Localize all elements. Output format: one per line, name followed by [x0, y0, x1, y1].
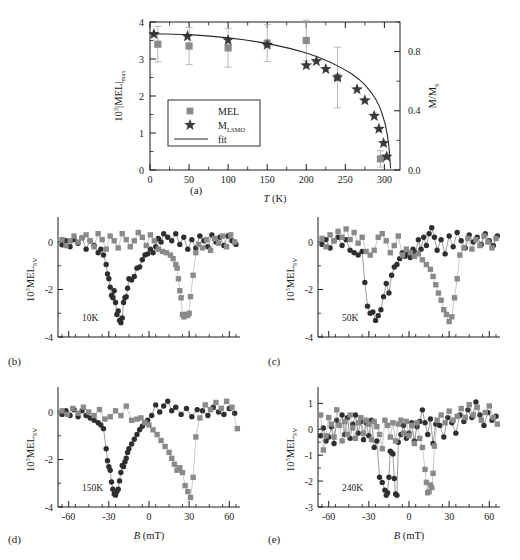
y-tick-label: 4 — [139, 17, 144, 28]
data-point — [359, 94, 371, 105]
data-point — [412, 441, 417, 446]
data-point — [140, 235, 145, 240]
data-point — [479, 418, 484, 423]
y-tick-label: -3 — [305, 502, 313, 513]
data-point — [113, 408, 118, 413]
data-point — [424, 243, 429, 248]
data-point — [342, 419, 347, 424]
data-point — [373, 123, 385, 134]
data-point — [436, 290, 441, 295]
data-point — [489, 245, 494, 250]
x-tick-label: 100 — [221, 174, 236, 185]
data-point — [185, 42, 192, 49]
data-point — [109, 479, 114, 484]
data-point — [197, 415, 202, 420]
x-tick-label: -30 — [102, 511, 115, 522]
y-tick-label: -2 — [305, 284, 313, 295]
data-point — [101, 426, 106, 431]
data-point — [150, 250, 155, 255]
data-point — [376, 313, 381, 318]
data-point — [429, 225, 434, 230]
data-point — [384, 281, 389, 286]
data-point — [83, 246, 88, 251]
data-point — [220, 233, 225, 238]
data-point — [71, 233, 76, 238]
data-point — [176, 276, 181, 281]
data-point — [59, 237, 64, 242]
data-point — [481, 233, 486, 238]
data-point — [125, 286, 130, 291]
data-point — [390, 420, 395, 425]
data-point — [319, 236, 324, 241]
data-point — [370, 309, 375, 314]
x-tick-label: 0 — [148, 174, 153, 185]
data-point — [63, 243, 68, 248]
series-down-sweep — [319, 225, 500, 323]
data-point — [132, 238, 137, 243]
y-tick-label: 1 — [139, 128, 144, 139]
data-point — [194, 407, 199, 412]
data-point — [475, 405, 480, 410]
data-point — [491, 415, 496, 420]
y-axis-title: 103|MEL|max — [112, 70, 126, 122]
data-point — [103, 446, 108, 451]
data-point — [353, 412, 358, 417]
data-point — [188, 495, 193, 500]
panel-d: 0-2-4-60-3003060103MELSVB (mT)150K — [0, 375, 260, 560]
data-point — [380, 446, 385, 451]
data-point — [169, 456, 174, 461]
data-point — [345, 432, 350, 437]
data-point — [103, 262, 108, 267]
y2-tick-label: 0.4 — [408, 105, 421, 116]
data-point — [70, 406, 75, 411]
data-point — [432, 235, 437, 240]
data-point — [224, 244, 229, 249]
data-point — [369, 437, 374, 442]
data-point — [189, 237, 194, 242]
data-point — [103, 246, 108, 251]
data-point — [126, 446, 131, 451]
data-point — [124, 403, 129, 408]
data-point — [184, 406, 189, 411]
data-point — [434, 418, 439, 423]
y-tick-label: -4 — [305, 332, 313, 343]
data-point — [426, 231, 431, 236]
data-point — [177, 242, 182, 247]
y-axis-title: 103MELSV — [284, 428, 298, 473]
data-point — [138, 415, 143, 420]
data-point — [381, 294, 386, 299]
data-point — [146, 422, 151, 427]
data-point — [483, 410, 488, 415]
data-point — [116, 308, 121, 313]
data-point — [337, 423, 342, 428]
data-point — [446, 408, 451, 413]
data-point — [355, 240, 360, 245]
data-point — [432, 443, 437, 448]
data-point — [59, 408, 64, 413]
data-point — [380, 480, 385, 485]
data-point — [339, 412, 344, 417]
data-point — [454, 276, 459, 281]
y2-tick-label: 0.8 — [408, 46, 421, 57]
data-point — [347, 412, 352, 417]
x-tick-label: 0 — [147, 511, 152, 522]
data-point — [420, 407, 425, 412]
data-point — [326, 415, 331, 420]
data-point — [331, 441, 336, 446]
data-point — [197, 233, 202, 238]
y-tick-label: -4 — [45, 332, 53, 343]
data-point — [368, 110, 380, 121]
data-point — [450, 244, 455, 249]
data-point — [212, 236, 217, 241]
data-point — [477, 243, 482, 248]
y-tick-label: 0 — [48, 237, 53, 248]
data-point — [400, 252, 405, 257]
data-point — [182, 30, 194, 41]
data-point — [232, 239, 237, 244]
data-point — [137, 264, 142, 269]
data-point — [441, 307, 446, 312]
x-tick-label: 250 — [338, 174, 353, 185]
data-point — [105, 458, 110, 463]
data-point — [422, 467, 427, 472]
data-point — [388, 434, 393, 439]
